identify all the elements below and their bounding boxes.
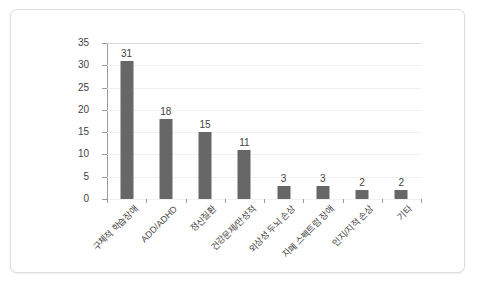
bar-slot: 3 [264, 43, 303, 199]
chart-frame: 05101520253035 311815113322 구체적 학습장애ADD/… [10, 9, 465, 273]
bar[interactable] [316, 186, 329, 199]
x-axis-label: 인지/지적 손상 [331, 204, 376, 249]
y-tick-label: 25 [49, 83, 89, 93]
x-axis-label: 구체적 학습장애 [91, 204, 140, 253]
bar-value-label: 3 [320, 173, 326, 184]
bar[interactable] [120, 61, 133, 199]
x-axis-label: ADD/ADHD [139, 204, 180, 245]
bar[interactable] [159, 119, 172, 199]
bar-slot: 31 [107, 43, 146, 199]
bar-value-label: 31 [121, 48, 132, 59]
x-axis-label: 기타 [396, 204, 415, 223]
bar[interactable] [199, 132, 212, 199]
bar[interactable] [238, 150, 251, 199]
y-tick-label: 35 [49, 38, 89, 48]
bar-slot: 3 [303, 43, 342, 199]
bar[interactable] [356, 190, 369, 199]
bar-value-label: 15 [200, 119, 211, 130]
bar-series: 311815113322 [107, 43, 421, 199]
x-axis-label: 정신질환 [188, 204, 218, 234]
bar-slot: 18 [146, 43, 185, 199]
y-tick-label: 30 [49, 60, 89, 70]
x-axis-category-labels: 구체적 학습장애ADD/ADHD정신질환건강문제/만성적외상성 두뇌 손상자폐 … [107, 202, 421, 272]
bar[interactable] [277, 186, 290, 199]
x-tick-mark [421, 199, 422, 203]
bar-slot: 2 [382, 43, 421, 199]
bar[interactable] [395, 190, 408, 199]
y-tick-label: 20 [49, 105, 89, 115]
bar-value-label: 18 [160, 106, 171, 117]
bar-slot: 15 [186, 43, 225, 199]
bar-slot: 2 [343, 43, 382, 199]
y-tick-label: 15 [49, 127, 89, 137]
y-tick-label: 10 [49, 149, 89, 159]
y-tick-label: 5 [49, 172, 89, 182]
bar-slot: 11 [225, 43, 264, 199]
bar-value-label: 3 [281, 173, 287, 184]
y-tick-label: 0 [49, 194, 89, 204]
bar-value-label: 11 [239, 137, 249, 148]
bar-value-label: 2 [399, 177, 405, 188]
bar-value-label: 2 [359, 177, 365, 188]
